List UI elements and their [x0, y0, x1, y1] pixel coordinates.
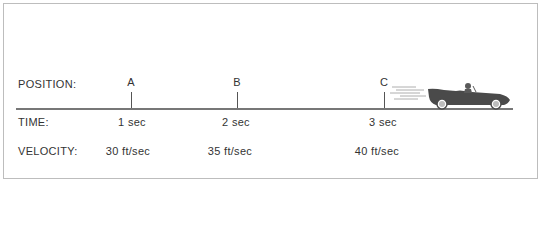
velocity-value-b: 35 ft/sec	[208, 145, 252, 157]
velocity-row-label: VELOCITY:	[18, 145, 78, 157]
velocity-value-c: 40 ft/sec	[355, 145, 399, 157]
time-value-c: 3 sec	[369, 116, 397, 128]
tick-b	[237, 92, 238, 108]
time-row-label: TIME:	[18, 116, 49, 128]
position-row-label: POSITION:	[18, 78, 76, 90]
velocity-value-a: 30 ft/sec	[106, 145, 150, 157]
tick-c	[384, 92, 385, 108]
car-icon	[390, 78, 515, 110]
tick-a	[131, 92, 132, 108]
speed-lines-icon	[390, 87, 426, 99]
time-value-a: 1 sec	[118, 116, 146, 128]
time-value-b: 2 sec	[222, 116, 250, 128]
position-marker-a: A	[127, 76, 135, 88]
position-marker-b: B	[233, 76, 241, 88]
position-marker-c: C	[380, 76, 388, 88]
